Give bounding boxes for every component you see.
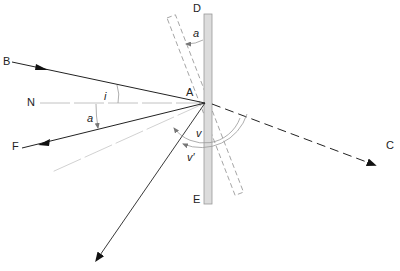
mirror-DE [204, 14, 212, 204]
label-D: D [193, 3, 201, 14]
label-C: C [386, 140, 394, 151]
label-B: B [3, 56, 10, 67]
rotated-normal-line [52, 103, 205, 172]
label-F: F [12, 141, 19, 152]
label-angle-v-prime: v′ [187, 152, 195, 163]
label-angle-a-left: a [87, 113, 93, 124]
label-E: E [193, 194, 200, 205]
reflected-ray-rotated [98, 103, 205, 258]
label-angle-a-top: a [193, 28, 199, 39]
angle-a-arc-top [186, 40, 203, 44]
arrow-icon [38, 139, 50, 146]
label-A: A [186, 87, 193, 98]
label-angle-v: v [196, 128, 202, 139]
angle-a-arc-left [96, 104, 98, 128]
angle-i-arc [117, 85, 119, 103]
label-angle-i: i [104, 91, 106, 102]
label-N: N [27, 97, 35, 108]
ray-AC [212, 104, 372, 164]
arrow-icon [35, 64, 48, 70]
